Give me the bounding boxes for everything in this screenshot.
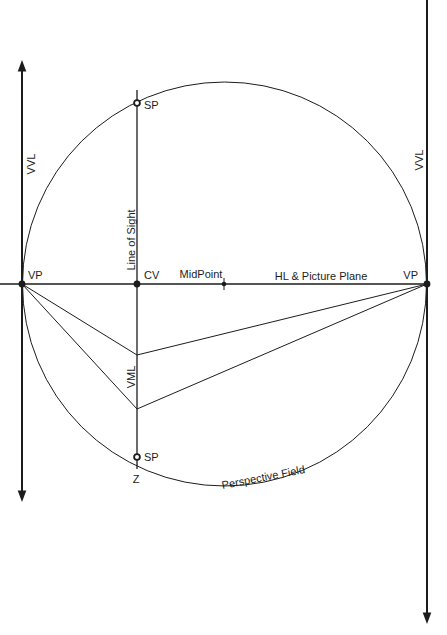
sp-bottom-point [134,454,140,460]
vanishing-line-vpleft-p1 [22,284,137,355]
vanishing-line-p2-vpright [137,284,427,409]
vml-label: VML [125,366,137,389]
sp-top-point [134,100,140,106]
perspective-construction-diagram: VP VP CV MidPoint HL & Picture Plane SP … [0,0,447,635]
arrow-up-icon [18,60,27,72]
cv-point [134,281,141,288]
vp-right-label: VP [403,269,418,281]
cv-label: CV [144,269,160,281]
vp-right-point [424,281,431,288]
sp-bottom-label: SP [144,451,159,463]
vanishing-line-p1-vpright [137,284,427,355]
midpoint-marker [222,282,227,287]
arrow-down-icon [423,613,432,625]
arrow-down-icon [18,491,27,503]
vp-left-point [19,281,26,288]
hl-picture-plane-label: HL & Picture Plane [275,270,368,282]
z-label: Z [133,473,140,485]
vp-left-label: VP [28,269,43,281]
diagram-canvas: VP VP CV MidPoint HL & Picture Plane SP … [0,0,447,635]
vvl-right-label: VVL [413,150,425,171]
vanishing-line-vpleft-p2 [22,284,137,409]
vvl-left-label: VVL [25,154,37,175]
sp-top-label: SP [144,99,159,111]
perspective-field-label: Perspective Field [221,463,306,491]
line-of-sight-label: Line of Sight [125,209,137,270]
midpoint-label: MidPoint [180,268,223,280]
